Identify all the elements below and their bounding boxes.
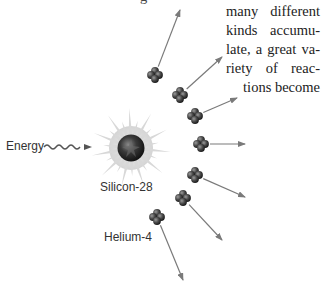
energy-label: Energy [6, 139, 44, 153]
trajectory-arrow-icon [203, 98, 237, 112]
helium-nucleus-icon [187, 108, 203, 124]
trajectory-arrow-icon [203, 179, 245, 197]
helium-nuclei [147, 67, 209, 225]
cut-off-text-fragment: g [140, 0, 147, 5]
trajectory-arrow-icon [158, 10, 180, 67]
helium-nucleus-icon [193, 136, 209, 152]
text-line: riety of reac- [226, 59, 320, 78]
text-line: tions become [226, 78, 320, 97]
text-line: many different [226, 2, 320, 21]
silicon-28-label: Silicon-28 [100, 180, 153, 194]
helium-nucleus-icon [149, 209, 165, 225]
helium-nucleus-icon [187, 167, 203, 183]
energy-arrowhead-icon [84, 144, 92, 150]
helium-nucleus-icon [172, 87, 188, 103]
energy-wave-icon [44, 145, 80, 149]
trajectory-arrow-icon [160, 225, 183, 280]
text-line: kinds accumu- [226, 21, 320, 40]
helium-4-label: Helium-4 [104, 230, 152, 244]
helium-nucleus-icon [175, 190, 191, 206]
trajectory-arrow-icon [189, 205, 222, 240]
text-line: late, a great va- [226, 40, 320, 59]
body-text-paragraph: many different kinds accumu- late, a gre… [226, 2, 320, 97]
trajectory-arrow-icon [187, 57, 222, 89]
alpha-process-diagram: Energy Silicon-28 Helium-4 g many differ… [0, 0, 324, 286]
helium-nucleus-icon [147, 67, 163, 83]
